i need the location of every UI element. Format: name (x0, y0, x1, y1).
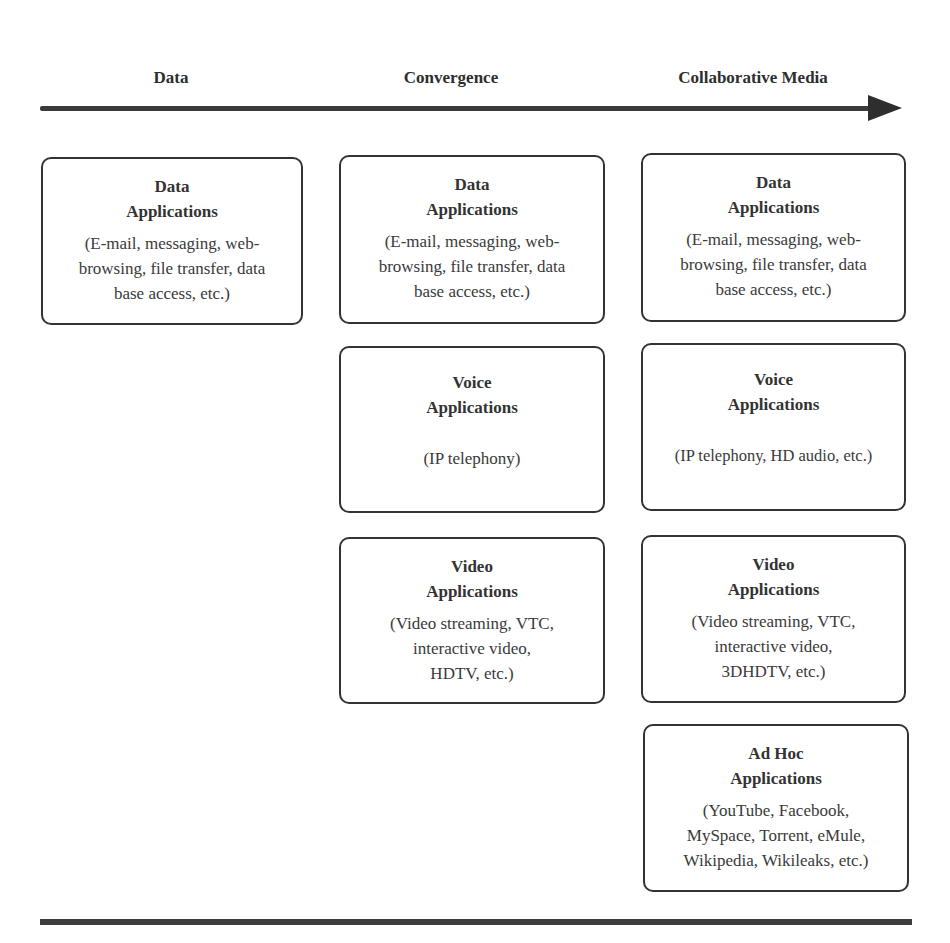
box-description: (Video streaming, VTC, interactive video… (688, 609, 860, 684)
desc-line: Wikipedia, Wikileaks, etc.) (684, 848, 869, 873)
desc-line: (E-mail, messaging, web- (680, 227, 867, 252)
box-video-applications-col3: Video Applications (Video streaming, VTC… (641, 535, 906, 703)
desc-line: (IP telephony) (423, 446, 520, 471)
desc-line: (YouTube, Facebook, (684, 798, 869, 823)
title-line: Voice (728, 367, 820, 392)
box-voice-applications-col3: Voice Applications (IP telephony, HD aud… (641, 343, 906, 511)
title-line: Ad Hoc (730, 741, 822, 766)
box-description: (IP telephony, HD audio, etc.) (675, 443, 873, 468)
box-description: (YouTube, Facebook, MySpace, Torrent, eM… (680, 798, 873, 873)
title-line: Data (426, 172, 518, 197)
desc-line: base access, etc.) (79, 281, 266, 306)
desc-line: (Video streaming, VTC, (692, 609, 856, 634)
title-line: Applications (728, 195, 820, 220)
box-title: Video Applications (728, 552, 820, 602)
box-title: Data Applications (728, 170, 820, 220)
box-video-applications-col2: Video Applications (Video streaming, VTC… (339, 537, 605, 704)
desc-line: browsing, file transfer, data (680, 252, 867, 277)
title-line: Applications (728, 577, 820, 602)
box-title: Ad Hoc Applications (730, 741, 822, 791)
bottom-divider (40, 919, 912, 925)
title-line: Applications (426, 395, 518, 420)
stage-label-convergence: Convergence (391, 68, 511, 88)
box-description: (E-mail, messaging, web- browsing, file … (375, 229, 570, 304)
box-title: Voice Applications (728, 367, 820, 417)
box-data-applications-col1: Data Applications (E-mail, messaging, we… (41, 157, 303, 325)
box-voice-applications-col2: Voice Applications (IP telephony) (339, 346, 605, 513)
desc-line: 3DHDTV, etc.) (692, 659, 856, 684)
desc-line: interactive video, (390, 636, 554, 661)
box-description: (E-mail, messaging, web- browsing, file … (676, 227, 871, 302)
box-data-applications-col2: Data Applications (E-mail, messaging, we… (339, 155, 605, 324)
desc-line: browsing, file transfer, data (379, 254, 566, 279)
box-title: Video Applications (426, 554, 518, 604)
box-data-applications-col3: Data Applications (E-mail, messaging, we… (641, 153, 906, 322)
title-line: Applications (426, 579, 518, 604)
title-line: Video (426, 554, 518, 579)
desc-line: HDTV, etc.) (390, 661, 554, 686)
desc-line: (IP telephony, HD audio, etc.) (675, 443, 873, 468)
desc-line: base access, etc.) (379, 279, 566, 304)
box-description: (IP telephony) (419, 446, 524, 471)
title-line: Data (126, 174, 218, 199)
box-title: Data Applications (426, 172, 518, 222)
stage-label-collaborative-media: Collaborative Media (648, 68, 858, 88)
title-line: Applications (126, 199, 218, 224)
timeline-arrow-line (40, 106, 872, 111)
title-line: Data (728, 170, 820, 195)
title-line: Applications (728, 392, 820, 417)
desc-line: base access, etc.) (680, 277, 867, 302)
title-line: Voice (426, 370, 518, 395)
desc-line: interactive video, (692, 634, 856, 659)
title-line: Applications (426, 197, 518, 222)
box-description: (E-mail, messaging, web- browsing, file … (75, 231, 270, 306)
box-ad-hoc-applications-col3: Ad Hoc Applications (YouTube, Facebook, … (643, 724, 909, 892)
box-title: Data Applications (126, 174, 218, 224)
arrow-right-icon (868, 95, 902, 121)
box-description: (Video streaming, VTC, interactive video… (386, 611, 558, 686)
desc-line: MySpace, Torrent, eMule, (684, 823, 869, 848)
desc-line: (E-mail, messaging, web- (379, 229, 566, 254)
desc-line: (E-mail, messaging, web- (79, 231, 266, 256)
title-line: Applications (730, 766, 822, 791)
title-line: Video (728, 552, 820, 577)
box-title: Voice Applications (426, 370, 518, 420)
desc-line: browsing, file transfer, data (79, 256, 266, 281)
stage-label-data: Data (131, 68, 211, 88)
desc-line: (Video streaming, VTC, (390, 611, 554, 636)
